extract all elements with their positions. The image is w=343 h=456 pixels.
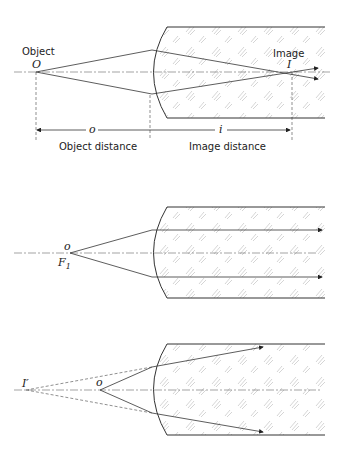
image-distance-symbol: i (219, 123, 223, 136)
ray-lower (36, 72, 152, 94)
virtual-image-symbol: I′ (21, 377, 29, 390)
object-symbol: o (64, 240, 71, 253)
object-distance-label: Object distance (59, 141, 137, 152)
ray-lower (100, 390, 152, 413)
ray-upper (70, 230, 152, 253)
image-symbol: I (286, 58, 292, 71)
focal-symbol: F1 (57, 256, 71, 271)
panel-real-image: Object O Image I o i Object distance Ima… (14, 27, 330, 152)
virtual-ray-lower (26, 390, 152, 413)
virtual-ray-upper (26, 367, 152, 390)
focal-letter: F (57, 256, 66, 269)
refraction-diagram: Object O Image I o i Object distance Ima… (0, 0, 343, 456)
object-label: Object (22, 46, 55, 57)
panel-virtual-image: I′ o (14, 344, 325, 435)
glass-rod (154, 27, 326, 118)
glass-rod (154, 207, 326, 298)
focal-subscript: 1 (66, 262, 71, 271)
object-symbol: o (96, 376, 103, 389)
glass-rod (154, 344, 326, 435)
ray-upper (100, 367, 152, 390)
object-distance-symbol: o (89, 123, 96, 136)
image-distance-label: Image distance (189, 141, 266, 152)
object-symbol: O (32, 58, 41, 71)
panel-focal-point: o F1 (14, 207, 325, 298)
ray-lower (70, 253, 152, 277)
